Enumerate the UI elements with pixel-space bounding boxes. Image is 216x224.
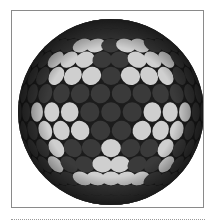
image-frame	[11, 10, 204, 208]
dotted-divider	[11, 219, 205, 220]
sphere-image	[11, 10, 204, 208]
sphere-rim-shading	[18, 19, 204, 205]
